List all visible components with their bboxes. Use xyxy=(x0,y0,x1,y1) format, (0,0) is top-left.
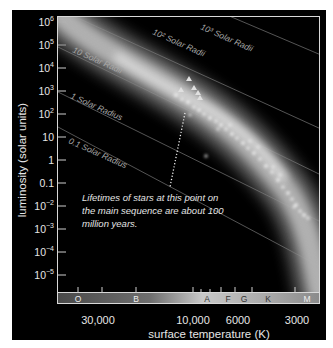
y-tick-1: 1 xyxy=(48,154,54,167)
y-axis-label-wrap: luminosity (solar units) xyxy=(12,16,32,304)
chart-panel: luminosity (solar units) 106 105 104 103… xyxy=(12,10,326,340)
y-tick-1e3: 103 xyxy=(38,85,54,98)
y-tick-1e-4: 10−4 xyxy=(34,246,54,259)
spectral-class-bar: O B A F G K M xyxy=(58,287,320,304)
hr-diagram-svg: 10³ Solar Radii 10² Solar Radii 10 Solar… xyxy=(58,17,320,304)
x-tick-3000: 3000 xyxy=(285,314,309,326)
radius-label-1: 1 Solar Radius xyxy=(69,91,125,123)
spectral-class-K: K xyxy=(265,294,271,304)
spectral-class-M: M xyxy=(303,294,310,304)
y-tick-10: 10 xyxy=(42,131,54,144)
radius-label-1000: 10³ Solar Radii xyxy=(199,22,255,54)
x-tick-30000: 30,000 xyxy=(81,314,115,326)
spectral-class-A: A xyxy=(204,294,210,304)
y-tick-1e6: 106 xyxy=(38,16,54,29)
y-tick-1e5: 105 xyxy=(38,39,54,52)
annotation-line-2: the main sequence are about 100 xyxy=(82,205,224,216)
y-tick-marks xyxy=(58,22,66,275)
spectral-class-O: O xyxy=(75,294,82,304)
y-tick-1e-5: 10−5 xyxy=(34,269,54,282)
annotation: Lifetimes of stars at this point on the … xyxy=(82,192,224,229)
x-tick-10000: 10,000 xyxy=(176,314,210,326)
x-axis-label: surface temperature (K) xyxy=(12,328,326,340)
y-tick-0.1: 0.1 xyxy=(39,177,54,190)
spectral-class-B: B xyxy=(133,294,139,304)
y-tick-1e-3: 10−3 xyxy=(34,223,54,236)
radius-label-01: 0.1 Solar Radius xyxy=(67,136,129,171)
annotation-line-3: million years. xyxy=(82,218,137,229)
y-tick-1e-2: 10−2 xyxy=(34,200,54,213)
spectral-class-F: F xyxy=(225,294,230,304)
plot-area: 10³ Solar Radii 10² Solar Radii 10 Solar… xyxy=(57,16,320,304)
annotation-line-1: Lifetimes of stars at this point on xyxy=(82,192,218,203)
y-tick-1e4: 104 xyxy=(38,62,54,75)
x-tick-6000: 6000 xyxy=(226,314,250,326)
y-axis-label: luminosity (solar units) xyxy=(16,103,28,217)
annotation-pointer xyxy=(170,113,185,187)
spectral-class-G: G xyxy=(241,294,248,304)
y-tick-1e2: 102 xyxy=(38,108,54,121)
